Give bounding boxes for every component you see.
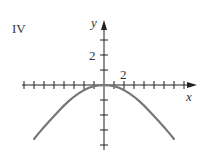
y-tick-label: 2 [89,48,96,63]
x-axis-arrow-icon [187,82,197,88]
y-axis-arrow-icon [101,20,107,30]
graph: IV y x 2 2 [0,0,208,155]
y-axis-label: y [89,15,97,30]
x-tick-label: 2 [120,67,127,82]
panel-label: IV [12,21,26,36]
x-axis-label: x [185,89,192,104]
